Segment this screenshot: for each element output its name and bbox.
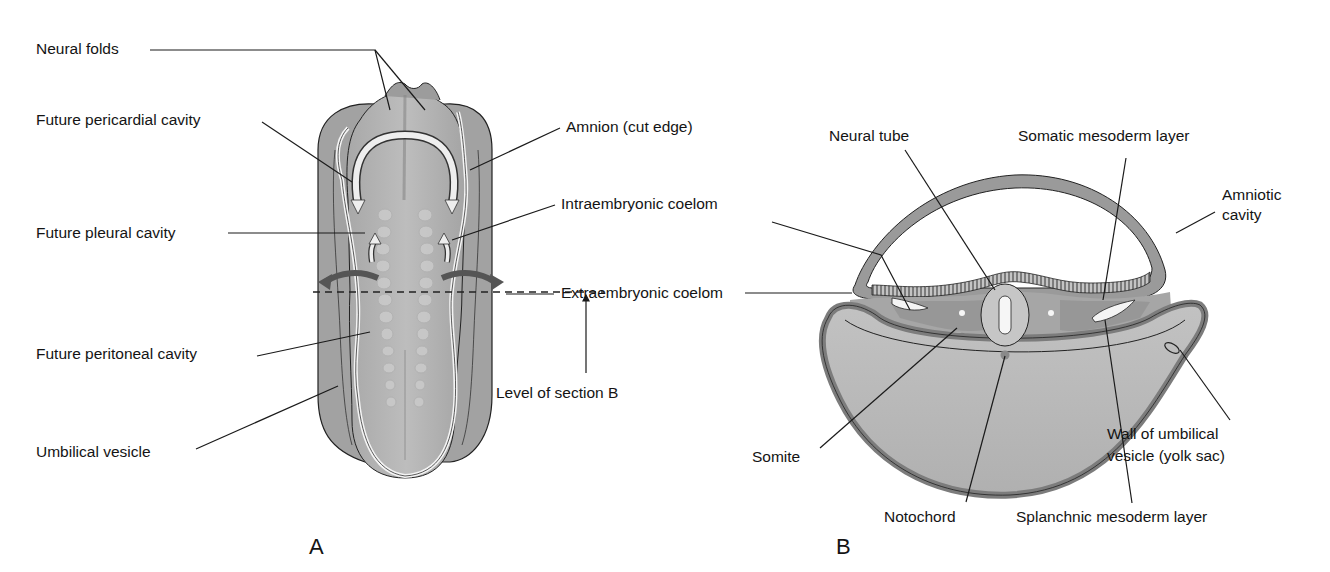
label-future-pericardial-cavity: Future pericardial cavity — [36, 111, 201, 129]
label-amniotic-cavity: Amniotic cavity — [1222, 185, 1281, 225]
label-extraembryonic-coelom: Extraembryonic coelom — [561, 284, 723, 302]
label-neural-tube: Neural tube — [829, 127, 909, 145]
label-amniotic-cavity-line1: Amniotic — [1222, 185, 1281, 205]
label-future-pleural-cavity: Future pleural cavity — [36, 224, 176, 242]
label-wall-line2: vesicle (yolk sac) — [1107, 445, 1225, 467]
label-amnion-cut-edge: Amnion (cut edge) — [566, 118, 693, 136]
label-wall-line1: Wall of umbilical — [1107, 423, 1225, 445]
label-notochord: Notochord — [884, 508, 956, 526]
label-neural-folds: Neural folds — [36, 40, 119, 58]
label-level-of-section-b: Level of section B — [496, 384, 618, 402]
label-somatic-mesoderm-layer: Somatic mesoderm layer — [1018, 127, 1189, 145]
label-umbilical-vesicle: Umbilical vesicle — [36, 443, 151, 461]
label-wall-of-umbilical-vesicle: Wall of umbilical vesicle (yolk sac) — [1107, 423, 1225, 467]
panel-a-letter: A — [309, 535, 324, 559]
label-future-peritoneal-cavity: Future peritoneal cavity — [36, 345, 197, 363]
label-somite: Somite — [752, 448, 800, 466]
label-splanchnic-mesoderm-layer: Splanchnic mesoderm layer — [1016, 508, 1207, 526]
label-amniotic-cavity-line2: cavity — [1222, 205, 1281, 225]
panel-a-embryo — [313, 83, 604, 479]
panel-b-letter: B — [836, 535, 851, 559]
figure-canvas: Neural folds Future pericardial cavity F… — [0, 0, 1330, 572]
label-intraembryonic-coelom: Intraembryonic coelom — [561, 195, 718, 213]
